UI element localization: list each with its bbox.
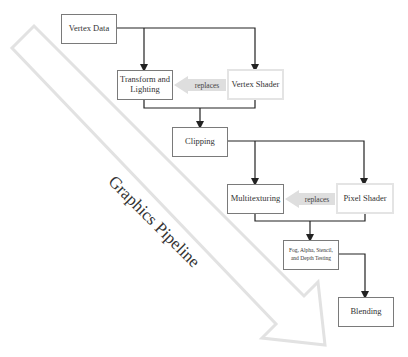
node-clipping: Clipping xyxy=(172,127,228,157)
node-blending: Blending xyxy=(338,297,394,327)
node-vertex-data: Vertex Data xyxy=(61,14,117,44)
node-vertex-shader: Vertex Shader xyxy=(227,69,284,100)
replaces-label: replaces xyxy=(188,79,226,91)
node-multitexturing: Multitexturing xyxy=(227,184,284,214)
node-transform-lighting: Transform and Lighting xyxy=(117,70,173,100)
replaces-label: replaces xyxy=(299,193,335,205)
node-pixel-shader: Pixel Shader xyxy=(336,183,394,214)
node-fog-alpha-stencil-depth: Fog, Alpha, Stencil, and Depth Testing xyxy=(283,240,339,270)
